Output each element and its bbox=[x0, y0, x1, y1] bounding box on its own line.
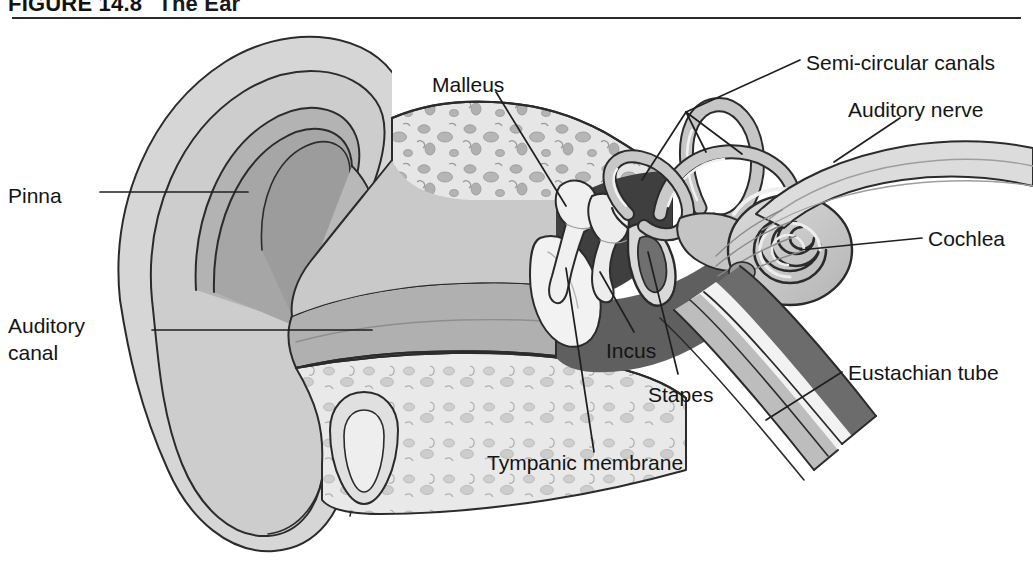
ear-anatomy-illustration bbox=[0, 0, 1033, 571]
label-tympanic-membrane: Tympanic membrane bbox=[487, 450, 683, 475]
label-auditory-nerve: Auditory nerve bbox=[848, 97, 983, 122]
figure-the-ear: FIGURE 14.8The Ear bbox=[0, 0, 1033, 571]
label-semi-circular-canals: Semi-circular canals bbox=[806, 50, 995, 75]
label-auditory-canal-line2: canal bbox=[8, 341, 58, 364]
label-auditory-canal: Auditorycanal bbox=[8, 312, 138, 366]
label-malleus: Malleus bbox=[432, 72, 504, 97]
label-stapes: Stapes bbox=[648, 382, 713, 407]
label-pinna: Pinna bbox=[8, 183, 62, 208]
label-cochlea: Cochlea bbox=[928, 226, 1005, 251]
temporal-bone-lower bbox=[296, 353, 686, 514]
label-eustachian-tube: Eustachian tube bbox=[848, 360, 999, 385]
label-incus: Incus bbox=[606, 338, 656, 363]
label-auditory-canal-line1: Auditory bbox=[8, 314, 85, 337]
